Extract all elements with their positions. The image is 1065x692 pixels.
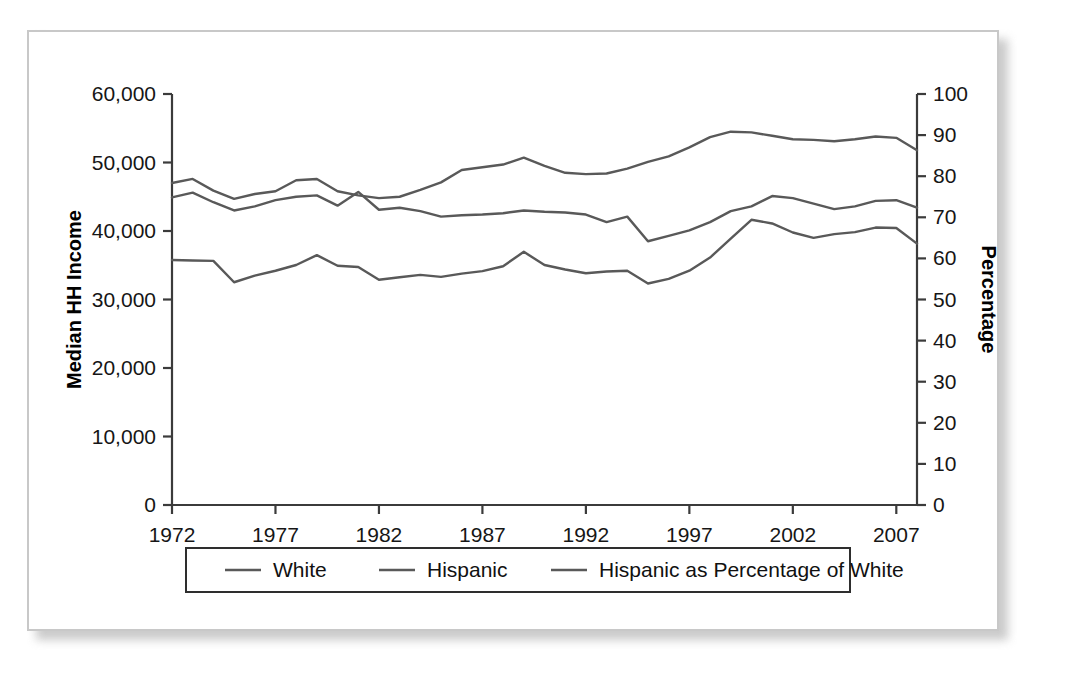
legend-label-2: Hispanic xyxy=(427,558,508,581)
x-axis-tick-label: 1977 xyxy=(252,523,299,546)
y-axis-right-tick-label: 100 xyxy=(933,82,968,105)
legend-label-3: Hispanic as Percentage of White xyxy=(599,558,904,581)
figure-root: 010,00020,00030,00040,00050,00060,000010… xyxy=(0,0,1065,692)
line-chart: 010,00020,00030,00040,00050,00060,000010… xyxy=(29,32,1001,633)
y-axis-left-tick-label: 0 xyxy=(144,493,156,516)
x-axis-tick-label: 1987 xyxy=(459,523,506,546)
y-axis-left-tick-label: 20,000 xyxy=(92,356,156,379)
series-line-hispanic xyxy=(172,192,917,241)
series-line-white xyxy=(172,132,917,199)
figure-frame: 010,00020,00030,00040,00050,00060,000010… xyxy=(27,30,999,631)
y-axis-left-tick-label: 10,000 xyxy=(92,425,156,448)
y-axis-left-tick-label: 60,000 xyxy=(92,82,156,105)
x-axis-tick-label: 2002 xyxy=(769,523,816,546)
x-axis-tick-label: 2007 xyxy=(873,523,920,546)
x-axis-tick-label: 1982 xyxy=(356,523,403,546)
y-axis-right-tick-label: 60 xyxy=(933,246,956,269)
y-axis-left-tick-label: 40,000 xyxy=(92,219,156,242)
x-axis-tick-label: 1992 xyxy=(563,523,610,546)
y-axis-left-title: Median HH Income xyxy=(63,210,85,389)
y-axis-right-tick-label: 20 xyxy=(933,411,956,434)
y-axis-left-tick-label: 30,000 xyxy=(92,288,156,311)
y-axis-right-tick-label: 80 xyxy=(933,164,956,187)
y-axis-right-tick-label: 50 xyxy=(933,288,956,311)
x-axis-tick-label: 1972 xyxy=(149,523,196,546)
y-axis-right-tick-label: 40 xyxy=(933,329,956,352)
y-axis-right-tick-label: 30 xyxy=(933,370,956,393)
y-axis-right-title: Percentage xyxy=(978,246,1000,354)
series-line-hispanic-as-percentage-of-white xyxy=(172,220,917,284)
x-axis-tick-label: 1997 xyxy=(666,523,713,546)
y-axis-left-tick-label: 50,000 xyxy=(92,151,156,174)
y-axis-right-tick-label: 0 xyxy=(933,493,945,516)
chart-area: 010,00020,00030,00040,00050,00060,000010… xyxy=(29,32,1001,633)
y-axis-right-tick-label: 70 xyxy=(933,205,956,228)
y-axis-right-tick-label: 10 xyxy=(933,452,956,475)
legend-label-1: White xyxy=(273,558,327,581)
y-axis-right-tick-label: 90 xyxy=(933,123,956,146)
